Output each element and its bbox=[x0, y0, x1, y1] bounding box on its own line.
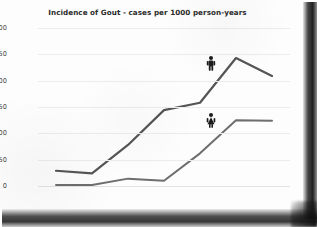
gridline bbox=[38, 107, 290, 108]
scan-shadow-corner bbox=[291, 201, 317, 227]
y-axis-tick-label: 300 bbox=[0, 24, 7, 32]
y-axis-tick-label: 50 bbox=[0, 156, 7, 164]
y-axis-tick-label: 250 bbox=[0, 50, 7, 58]
y-axis-tick-label: 200 bbox=[0, 77, 7, 85]
chart-figure: Incidence of Gout - cases per 1000 perso… bbox=[0, 0, 317, 227]
gridline bbox=[38, 160, 290, 161]
y-axis-tick-label: 0 bbox=[0, 182, 7, 190]
y-axis-tick-label: 150 bbox=[0, 103, 7, 111]
gridline bbox=[38, 133, 290, 134]
scan-shadow-bottom bbox=[2, 209, 317, 227]
gridline bbox=[38, 186, 290, 187]
gridline bbox=[38, 81, 290, 82]
male-figure-icon bbox=[205, 56, 216, 75]
plot-area: 05010015020025030018-2930-3940-4950-5960… bbox=[38, 28, 290, 186]
female-figure-icon bbox=[205, 113, 216, 132]
gridline bbox=[38, 28, 290, 29]
line-series-women bbox=[56, 120, 272, 185]
chart-title: Incidence of Gout - cases per 1000 perso… bbox=[0, 8, 295, 17]
chart-card: Incidence of Gout - cases per 1000 perso… bbox=[0, 0, 303, 209]
line-series-men bbox=[56, 58, 272, 173]
y-axis-tick-label: 100 bbox=[0, 129, 7, 137]
gridline bbox=[38, 54, 290, 55]
scan-shadow-right bbox=[303, 2, 317, 219]
